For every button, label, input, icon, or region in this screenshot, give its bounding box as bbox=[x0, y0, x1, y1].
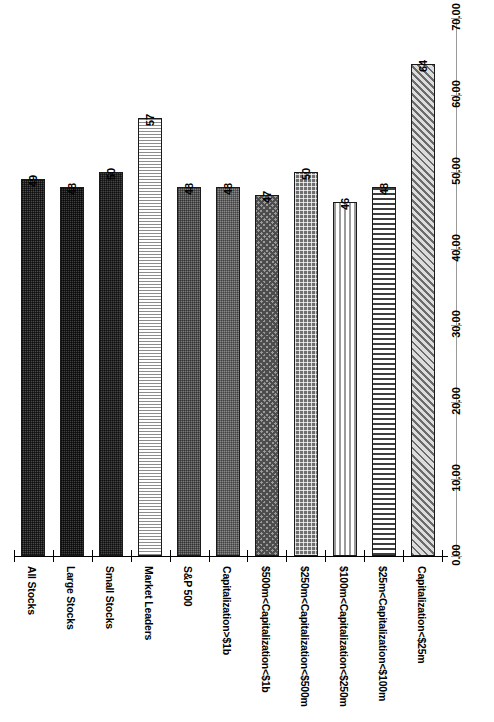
bar-value-label: 48 bbox=[222, 183, 234, 195]
bar-value-label: 50 bbox=[300, 167, 312, 179]
bar-value-label: 47 bbox=[261, 191, 273, 203]
bar bbox=[372, 187, 396, 556]
value-axis-tick-label-text: 50.00 bbox=[450, 157, 462, 199]
bar bbox=[21, 179, 45, 556]
bar bbox=[177, 187, 201, 556]
bar bbox=[294, 172, 318, 556]
value-axis-tick-label-text: 20.00 bbox=[450, 388, 462, 430]
bar bbox=[333, 202, 357, 556]
bar-chart: 0.0010.0020.0030.0040.0050.0060.0070.00 … bbox=[0, 0, 494, 722]
value-axis-tick-label-text: 0.00 bbox=[450, 544, 462, 579]
category-axis-label: $250m<Capitalization<$500m bbox=[299, 566, 311, 707]
category-axis-label: Capitalization>$1b bbox=[221, 566, 233, 655]
bar-value-label: 50 bbox=[105, 167, 117, 179]
bar-value-label: 48 bbox=[183, 183, 195, 195]
category-axis-tick bbox=[325, 550, 326, 562]
value-axis-tick-label-text: 70.00 bbox=[450, 3, 462, 45]
value-axis-tick-label-text: 10.00 bbox=[450, 464, 462, 506]
bar-value-label: 48 bbox=[66, 183, 78, 195]
category-axis-line bbox=[14, 556, 448, 557]
category-axis-tick bbox=[92, 550, 93, 562]
category-axis-tick bbox=[442, 550, 443, 562]
bar bbox=[255, 195, 279, 556]
bar-value-label: 46 bbox=[339, 198, 351, 210]
bar-value-label: 48 bbox=[378, 183, 390, 195]
category-axis-tick bbox=[14, 550, 15, 562]
value-axis-tick-label-text: 60.00 bbox=[450, 80, 462, 122]
bar bbox=[60, 187, 84, 556]
category-axis-label: All Stocks bbox=[26, 566, 38, 615]
value-axis-tick-label: 30.00 bbox=[450, 311, 462, 353]
category-axis-label: $25m<Capitalization<$100m bbox=[377, 566, 389, 701]
category-axis-tick bbox=[131, 550, 132, 562]
category-axis-label: Capitalization<$25m bbox=[416, 566, 428, 663]
category-axis-label: S&P 500 bbox=[182, 566, 194, 606]
bar bbox=[138, 118, 162, 556]
category-axis-tick bbox=[286, 550, 287, 562]
bar-value-label: 64 bbox=[417, 60, 429, 72]
category-axis-label: Small Stocks bbox=[104, 566, 116, 629]
category-axis-label: Large Stocks bbox=[65, 566, 77, 630]
bar-value-label: 57 bbox=[144, 114, 156, 126]
value-axis-tick-label-text: 30.00 bbox=[450, 311, 462, 353]
value-axis-tick-label: 60.00 bbox=[450, 80, 462, 122]
category-axis-tick bbox=[53, 550, 54, 562]
bar bbox=[216, 187, 240, 556]
category-axis-tick bbox=[403, 550, 404, 562]
category-axis-tick bbox=[170, 550, 171, 562]
bar-value-label: 49 bbox=[27, 175, 39, 187]
value-axis-tick-label-text: 40.00 bbox=[450, 234, 462, 276]
category-axis-tick bbox=[364, 550, 365, 562]
category-axis-label: $100m<Capitalization<$250m bbox=[338, 566, 350, 707]
category-axis-label: Market Leaders bbox=[143, 566, 155, 640]
value-axis-tick-label: 10.00 bbox=[450, 464, 462, 506]
category-axis-label: $500m<Capitalization<$1b bbox=[260, 566, 272, 693]
value-axis-tick-label: 50.00 bbox=[450, 157, 462, 199]
category-axis-tick bbox=[209, 550, 210, 562]
value-axis-tick-label: 70.00 bbox=[450, 3, 462, 45]
bar bbox=[99, 172, 123, 556]
category-axis-tick bbox=[247, 550, 248, 562]
value-axis-tick-label: 40.00 bbox=[450, 234, 462, 276]
bar bbox=[411, 64, 435, 556]
value-axis-tick-label: 0.00 bbox=[450, 544, 462, 579]
value-axis-tick-label: 20.00 bbox=[450, 388, 462, 430]
